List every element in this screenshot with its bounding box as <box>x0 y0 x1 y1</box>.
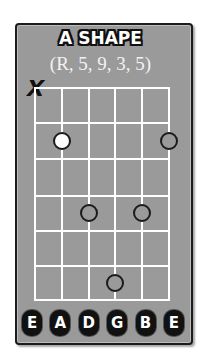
string-label-e-high: E <box>164 310 184 336</box>
string-label-d: D <box>79 310 99 336</box>
string-label-a: A <box>50 310 70 336</box>
fretboard-grid <box>0 0 201 361</box>
note-dot <box>106 274 124 292</box>
note-dot <box>160 132 178 150</box>
string-labels: E A D G B E <box>22 310 184 338</box>
string-label-e-low: E <box>22 310 42 336</box>
string-label-g: G <box>107 310 127 336</box>
note-dot <box>133 204 151 222</box>
root-note-dot <box>53 132 71 150</box>
string-label-b: B <box>136 310 156 336</box>
note-dot <box>80 204 98 222</box>
